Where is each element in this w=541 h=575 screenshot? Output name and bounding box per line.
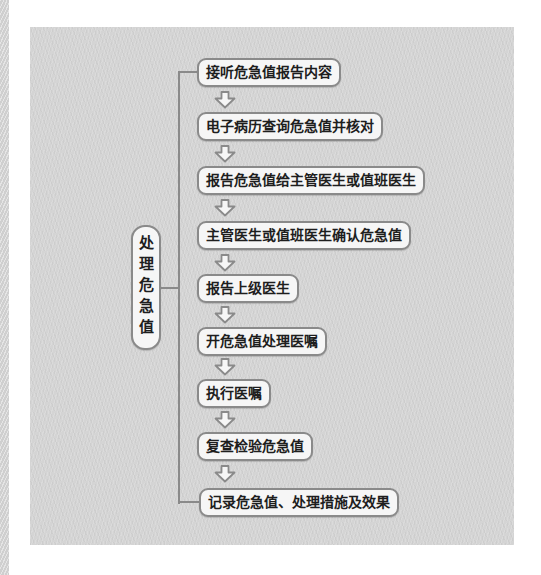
connector-stub-bottom (178, 501, 200, 503)
flowchart-panel: 处理危急值 接听危急值报告内容 电子病历查询危急值并核对 报告危急值给主管医生或… (30, 27, 514, 545)
connector-stub-top (178, 71, 198, 73)
step-box-2: 电子病历查询危急值并核对 (197, 112, 383, 141)
connector-stub-root (160, 287, 179, 289)
scanned-page: 处理危急值 接听危急值报告内容 电子病历查询危急值并核对 报告危急值给主管医生或… (0, 0, 541, 575)
step-box-4: 主管医生或值班医生确认危急值 (197, 221, 411, 250)
step-box-9: 记录危急值、处理措施及效果 (199, 488, 399, 517)
down-arrow-icon (214, 145, 236, 163)
step-box-5: 报告上级医生 (197, 274, 299, 303)
down-arrow-icon (214, 465, 236, 483)
down-arrow-icon (214, 411, 236, 429)
step-box-6: 开危急值处理医嘱 (197, 327, 327, 356)
down-arrow-icon (214, 254, 236, 272)
step-box-7: 执行医嘱 (197, 379, 271, 408)
root-node-label: 处理危急值 (139, 235, 154, 340)
page-edge-stripe (0, 0, 9, 575)
down-arrow-icon (214, 306, 236, 324)
step-box-8: 复查检验危急值 (197, 432, 313, 461)
down-arrow-icon (214, 199, 236, 217)
step-box-3: 报告危急值给主管医生或值班医生 (197, 166, 425, 195)
down-arrow-icon (214, 358, 236, 376)
root-node-box: 处理危急值 (131, 225, 161, 350)
step-box-1: 接听危急值报告内容 (197, 58, 341, 87)
down-arrow-icon (214, 91, 236, 109)
